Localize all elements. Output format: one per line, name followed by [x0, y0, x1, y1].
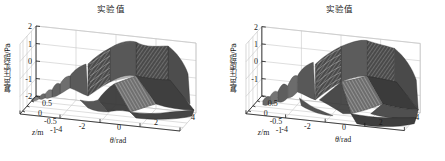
surface-plot-right: 2 1 0 -1 0.5 0 -0.5 [244, 18, 442, 158]
z-axis-name-right: z/m [257, 128, 270, 137]
axes-left: 2 1 0 -1 -2 0.5 0 [18, 18, 218, 158]
theta-tick-right-3: 2 [379, 118, 383, 127]
theta-tick-left-3: 2 [154, 118, 158, 127]
y-tick-left-2: 0 [28, 57, 32, 66]
z-axis-name-left: z/m [31, 128, 44, 137]
y-tick-right-2: 0 [254, 57, 258, 66]
z-tick-right-0: 0.5 [268, 99, 278, 108]
y-tick-right-3: -1 [251, 75, 258, 84]
theta-tick-right-2: 0 [342, 123, 346, 132]
theta-tick-left-4: 4 [191, 113, 195, 122]
figure-container: 实验值 复声压实部/Pa [0, 0, 445, 161]
y-tick-left-1: 1 [28, 40, 32, 49]
plot-title-right: 实验值 [222, 2, 445, 14]
y-tick-left-4: -2 [25, 92, 32, 101]
theta-axis-name-left: θ/rad [110, 136, 126, 145]
y-axis-label-left: 复声压实部/Pa [4, 26, 16, 110]
y-axis-label-right: 复声压虚部/Pa [230, 26, 242, 110]
theta-tick-left-2: 0 [117, 123, 121, 132]
surface-plot-left: 2 1 0 -1 -2 0.5 0 [18, 18, 218, 158]
theta-tick-left-1: -2 [79, 122, 86, 131]
plot-panel-left: 实验值 复声压实部/Pa [0, 0, 222, 161]
theta-tick-right-1: -2 [304, 122, 311, 131]
plot-panel-right: 实验值 复声压虚部/Pa [222, 0, 445, 161]
theta-tick-left-0: -4 [56, 125, 63, 134]
y-tick-right-0: 2 [254, 23, 258, 32]
y-tick-right-1: 1 [254, 40, 258, 49]
theta-axis-name-right: θ/rad [335, 135, 351, 144]
y-tick-left-3: -1 [25, 75, 32, 84]
theta-tick-right-4: 4 [415, 113, 419, 122]
z-tick-left-0: 0.5 [42, 99, 52, 108]
theta-tick-right-0: -4 [281, 125, 288, 134]
plot-title-left: 实验值 [0, 2, 222, 14]
axes-right: 2 1 0 -1 0.5 0 -0.5 [244, 18, 442, 158]
y-tick-left-0: 2 [28, 22, 32, 31]
